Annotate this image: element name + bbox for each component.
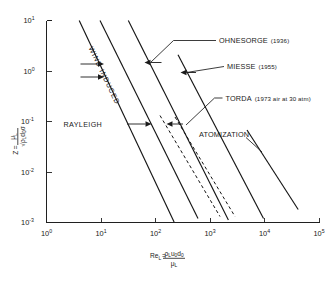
y-ticklabel-1em1: 10-1 [21, 116, 34, 126]
y-axis-ticks [47, 21, 52, 223]
chart-figure: 101 100 10-1 10-2 10-3 [0, 0, 332, 282]
label-wind-induced: WIND INDUCED [88, 45, 122, 105]
y-axis-title-text: Z= [12, 145, 19, 155]
x-axis-title: ReL= ρLu0d0 μL [150, 250, 185, 268]
x-axis-tick-labels: 100 101 102 103 104 105 [41, 228, 325, 238]
y-axis-title: Z= μL √ρLd0σ [9, 126, 27, 154]
label-torda: TORDA(1973 air at 30 atm) [226, 94, 311, 103]
x-axis-denominator: μL [171, 260, 178, 269]
annotation-labels: OHNESORGE(1936) MIESSE(1955) TORDA(1973 … [64, 36, 311, 139]
x-ticklabel-1e0: 100 [41, 228, 52, 238]
x-axis-title-fraction: ρLu0d0 μL [163, 250, 185, 268]
label-ohnesorge: OHNESORGE(1936) [219, 36, 289, 45]
y-axis-denominator: √ρLd0σ [19, 126, 28, 146]
chart-curves [79, 21, 298, 223]
y-axis-tick-labels: 101 100 10-1 10-2 10-3 [21, 15, 35, 227]
x-ticklabel-1e4: 104 [259, 228, 270, 238]
x-ticklabel-1e1: 101 [95, 228, 106, 238]
leader-torda-connector [186, 98, 215, 125]
y-axis-numerator: μL [9, 133, 18, 140]
x-axis-numerator: ρLu0d0 [164, 250, 183, 258]
arrow-ohnesorge-head [145, 60, 151, 66]
curve-atomization-boundary [247, 130, 298, 210]
x-ticklabel-1e2: 102 [150, 228, 161, 238]
x-axis-ticks [47, 218, 320, 223]
leader-atomization [246, 138, 262, 153]
label-miesse: MIESSE(1955) [227, 62, 277, 71]
leader-miesse [187, 67, 225, 73]
x-ticklabel-1e3: 103 [204, 228, 215, 238]
y-ticklabel-1e1: 101 [23, 15, 34, 25]
y-ticklabel-1em2: 10-2 [21, 167, 34, 177]
x-ticklabel-1e5: 105 [313, 228, 324, 238]
label-rayleigh: RAYLEIGH [64, 120, 103, 129]
arrow-dashed-region-head [167, 121, 173, 127]
leader-ohnesorge [151, 41, 217, 63]
y-ticklabel-1e0: 100 [23, 66, 34, 76]
curve-miesse-1955 [128, 21, 228, 221]
curve-ohnesorge-1936 [100, 21, 198, 219]
label-atomization: ATOMIZATION [199, 130, 249, 139]
y-axis-title-fraction: μL √ρLd0σ [9, 126, 27, 146]
y-ticklabel-1em3: 10-3 [21, 217, 34, 227]
regime-chart-svg: 101 100 10-1 10-2 10-3 [0, 0, 332, 282]
arrow-miesse-head [181, 70, 187, 76]
